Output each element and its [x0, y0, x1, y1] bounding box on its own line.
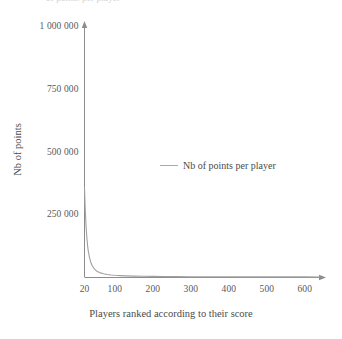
y-tick-label: 750 000 [47, 84, 79, 94]
chart-figure: of points per player Nb of points Player… [0, 0, 342, 339]
x-tick-label: 500 [260, 284, 275, 294]
legend-label: Nb of points per player [183, 160, 276, 171]
legend-swatch-icon [160, 165, 178, 166]
x-tick-label: 600 [298, 284, 313, 294]
y-tick-label: 1 000 000 [40, 21, 79, 31]
x-tick-label: 400 [222, 284, 237, 294]
x-tick-label: 300 [184, 284, 199, 294]
x-axis-arrow-icon [319, 275, 326, 280]
y-axis-title: Nb of points [12, 100, 23, 200]
series-line-nb-of-points-per-player [85, 188, 321, 277]
x-axis-title: Players ranked according to their score [0, 308, 342, 319]
y-tick-label: 250 000 [47, 209, 79, 219]
x-tick-label: 100 [108, 284, 123, 294]
chart-legend: Nb of points per player [160, 160, 276, 171]
y-tick-label: 500 000 [47, 147, 79, 157]
x-tick-label: 20 [80, 284, 90, 294]
x-tick-label: 200 [146, 284, 161, 294]
y-axis-arrow-icon [82, 21, 87, 28]
